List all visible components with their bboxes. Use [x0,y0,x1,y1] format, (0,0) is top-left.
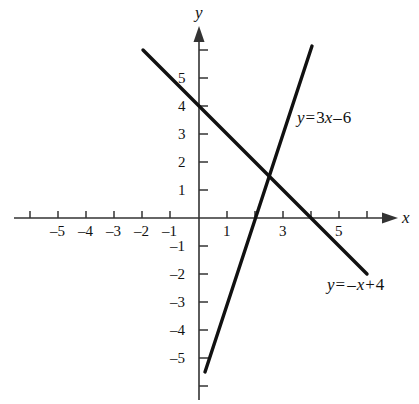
y-tick-label-5: 5 [178,71,186,86]
x-tick-label-3: 3 [279,224,287,239]
coordinate-plane-svg [0,0,419,404]
eq1-constant: 6 [343,108,352,127]
x-axis-arrowhead [382,213,398,224]
y-axis-label: y [195,4,203,21]
eq2-equals: = [335,275,347,294]
eq2-negative-sign: – [346,275,357,294]
eq1-lhs: y [297,108,305,127]
x-tick-label-neg5: –5 [50,224,65,239]
eq1-coefficient: 3 [316,108,325,127]
x-axis-label: x [402,209,410,226]
y-tick-label-1: 1 [178,183,186,198]
x-tick-label-neg2: –2 [134,224,149,239]
y-tick-label-neg3: –3 [170,295,185,310]
y-axis-arrowhead [194,26,205,42]
equation-label-line-neg-x-plus-4: y=–x+4 [327,276,384,294]
x-tick-label-neg1: –1 [162,224,177,239]
y-tick-label-3: 3 [178,127,186,142]
y-tick-label-neg5: –5 [170,351,185,366]
eq1-equals: = [305,108,317,127]
eq2-constant: 4 [376,275,385,294]
equation-label-line-3x-minus-6: y=3x–6 [297,109,351,127]
graph-figure: y x –5 –4 –3 –2 –1 1 3 5 5 4 3 2 1 –1 –2… [0,0,419,404]
y-axis-group [194,26,209,400]
x-axis-group [14,211,398,224]
x-tick-label-neg3: –3 [106,224,121,239]
eq1-operator: – [332,108,343,127]
line-y-equals-3x-minus-6 [205,46,312,372]
eq2-operator: + [364,275,376,294]
y-tick-label-neg1: –1 [170,239,185,254]
y-tick-label-neg2: –2 [170,267,185,282]
y-tick-label-neg4: –4 [170,323,185,338]
x-tick-label-neg4: –4 [78,224,93,239]
y-tick-label-4: 4 [178,99,186,114]
y-tick-label-2: 2 [178,155,186,170]
x-tick-label-1: 1 [223,224,231,239]
x-tick-label-5: 5 [335,224,343,239]
eq2-lhs: y [327,275,335,294]
